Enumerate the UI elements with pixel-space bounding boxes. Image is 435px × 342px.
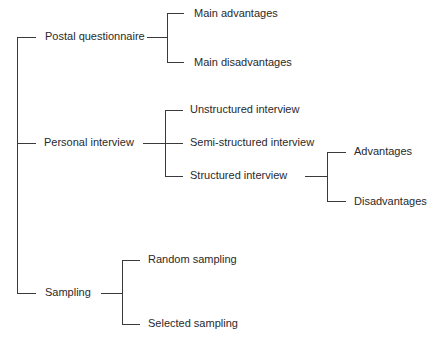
node-random-sampling: Random sampling (148, 253, 237, 266)
node-advantages: Advantages (354, 145, 412, 158)
node-personal-interview: Personal interview (44, 136, 134, 149)
node-structured-interview: Structured interview (190, 169, 287, 182)
node-unstructured-interview: Unstructured interview (190, 103, 299, 116)
node-disadvantages: Disadvantages (354, 195, 427, 208)
node-main-disadvantages: Main disadvantages (194, 56, 292, 69)
node-postal-questionnaire: Postal questionnaire (45, 30, 145, 43)
node-selected-sampling: Selected sampling (148, 317, 238, 330)
node-sampling: Sampling (45, 286, 91, 299)
node-semi-structured-interview: Semi-structured interview (190, 136, 314, 149)
node-main-advantages: Main advantages (194, 7, 278, 20)
